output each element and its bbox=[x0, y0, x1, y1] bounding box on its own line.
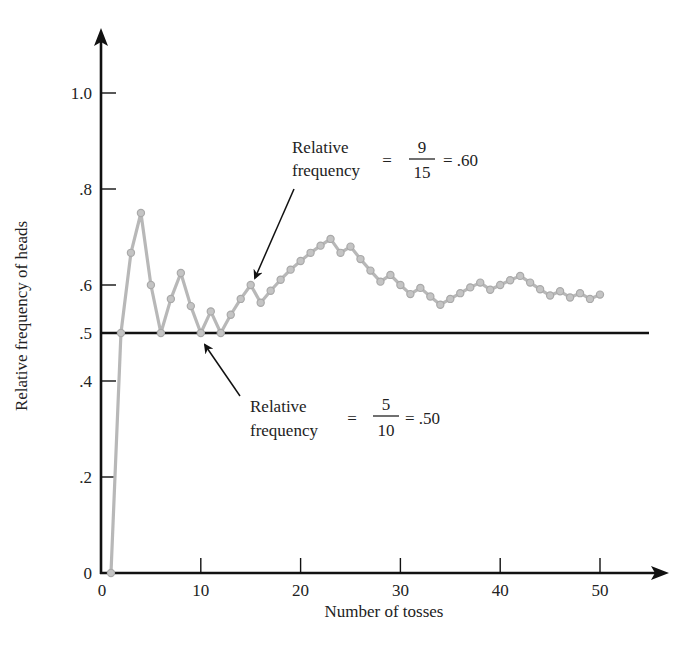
data-point bbox=[517, 272, 524, 279]
y-tick-label: .6 bbox=[79, 276, 92, 295]
data-point bbox=[257, 299, 264, 306]
x-tick-label: 30 bbox=[392, 581, 409, 600]
data-point bbox=[556, 288, 563, 295]
data-point bbox=[277, 276, 284, 283]
x-tick-label: 40 bbox=[492, 581, 509, 600]
annotation-lower-result: = .50 bbox=[405, 409, 440, 428]
data-point bbox=[367, 267, 374, 274]
data-point bbox=[127, 249, 134, 256]
data-point bbox=[137, 209, 144, 216]
data-point bbox=[566, 294, 573, 301]
data-point bbox=[397, 281, 404, 288]
data-point bbox=[576, 290, 583, 297]
data-point bbox=[547, 292, 554, 299]
data-point bbox=[437, 301, 444, 308]
x-ticks: 01020304050 bbox=[98, 558, 609, 600]
data-point bbox=[147, 281, 154, 288]
annotation-upper-arrow-icon bbox=[255, 189, 294, 278]
data-point bbox=[447, 295, 454, 302]
data-point bbox=[586, 295, 593, 302]
data-point bbox=[297, 257, 304, 264]
data-point bbox=[267, 287, 274, 294]
data-point bbox=[197, 329, 204, 336]
data-point bbox=[497, 281, 504, 288]
y-tick-label: .5 bbox=[79, 324, 92, 343]
x-tick-label: 50 bbox=[592, 581, 609, 600]
annotation-lower-denominator: 10 bbox=[378, 421, 395, 440]
y-tick-label: .4 bbox=[79, 372, 92, 391]
data-series bbox=[107, 209, 603, 576]
data-point bbox=[167, 295, 174, 302]
data-point bbox=[307, 249, 314, 256]
data-point bbox=[287, 266, 294, 273]
data-point bbox=[377, 278, 384, 285]
data-point bbox=[387, 271, 394, 278]
data-point bbox=[357, 255, 364, 262]
y-tick-label: 1.0 bbox=[71, 84, 92, 103]
x-axis-title: Number of tosses bbox=[325, 602, 444, 621]
annotation-upper-denominator: 15 bbox=[414, 163, 431, 182]
data-point bbox=[237, 295, 244, 302]
data-point bbox=[117, 329, 124, 336]
data-point bbox=[477, 279, 484, 286]
x-tick-label: 0 bbox=[98, 581, 107, 600]
data-point bbox=[507, 277, 514, 284]
data-point bbox=[107, 569, 114, 576]
series-line bbox=[111, 213, 600, 573]
x-tick-label: 10 bbox=[192, 581, 209, 600]
annotation-upper-line2: frequency bbox=[292, 161, 360, 180]
y-axis-title: Relative frequency of heads bbox=[12, 221, 31, 411]
data-point bbox=[407, 291, 414, 298]
annotation-upper-numerator: 9 bbox=[418, 138, 427, 157]
annotation-lower: Relative frequency = 5 10 = .50 bbox=[205, 345, 440, 440]
annotation-upper-equals: = bbox=[382, 151, 392, 170]
data-point bbox=[207, 308, 214, 315]
data-point bbox=[217, 329, 224, 336]
x-tick-label: 20 bbox=[292, 581, 309, 600]
data-point bbox=[157, 329, 164, 336]
annotation-lower-line1: Relative bbox=[250, 397, 307, 416]
data-point bbox=[177, 269, 184, 276]
annotation-lower-numerator: 5 bbox=[382, 395, 391, 414]
data-point bbox=[537, 286, 544, 293]
annotation-lower-line2: frequency bbox=[250, 421, 318, 440]
data-point bbox=[487, 286, 494, 293]
y-tick-label: 0 bbox=[84, 564, 93, 583]
data-point bbox=[427, 293, 434, 300]
annotation-lower-arrow-icon bbox=[205, 345, 240, 396]
data-point bbox=[527, 279, 534, 286]
data-point bbox=[457, 290, 464, 297]
y-tick-label: .2 bbox=[79, 468, 92, 487]
data-point bbox=[327, 235, 334, 242]
annotation-upper-line1: Relative bbox=[292, 138, 349, 157]
data-point bbox=[347, 243, 354, 250]
data-point bbox=[187, 303, 194, 310]
annotation-lower-equals: = bbox=[347, 409, 357, 428]
relative-frequency-chart: 0.2.4.5.6.81.0 01020304050 Number of tos… bbox=[0, 0, 699, 655]
data-point bbox=[227, 311, 234, 318]
annotation-upper-result: = .60 bbox=[443, 151, 478, 170]
data-point bbox=[467, 284, 474, 291]
data-point bbox=[337, 249, 344, 256]
data-point bbox=[247, 281, 254, 288]
y-tick-label: .8 bbox=[79, 180, 92, 199]
axes bbox=[94, 28, 669, 580]
data-point bbox=[596, 291, 603, 298]
data-point bbox=[417, 284, 424, 291]
data-point bbox=[317, 242, 324, 249]
annotation-upper: Relative frequency = 9 15 = .60 bbox=[255, 138, 478, 278]
